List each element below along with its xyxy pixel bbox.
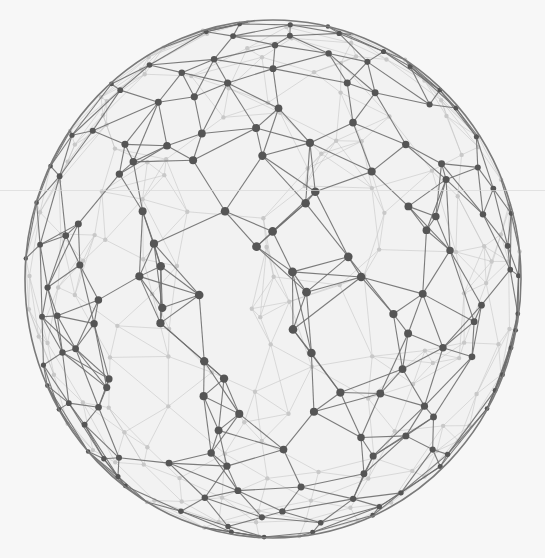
mesh-node (258, 152, 266, 160)
mesh-node (158, 304, 166, 312)
mesh-node (445, 452, 450, 457)
mesh-node (344, 253, 353, 262)
mesh-node (325, 50, 331, 56)
mesh-node (37, 334, 41, 338)
mesh-node (272, 42, 278, 48)
mesh-node (179, 69, 186, 76)
mesh-node (73, 142, 77, 146)
mesh-node (115, 474, 120, 479)
mesh-node (163, 142, 171, 150)
mesh-node (220, 495, 224, 499)
mesh-node (72, 345, 79, 352)
mesh-node (398, 490, 403, 495)
mesh-node (286, 412, 290, 416)
mesh-node (59, 349, 65, 355)
network-sphere-graphic (0, 0, 545, 558)
mesh-node (103, 384, 110, 391)
mesh-node (95, 296, 103, 304)
mesh-node (270, 65, 277, 72)
mesh-node (372, 89, 379, 96)
mesh-node (419, 290, 427, 298)
mesh-node (430, 447, 436, 453)
mesh-node (507, 327, 511, 331)
mesh-node (366, 476, 370, 480)
mesh-node (310, 408, 318, 416)
mesh-node (381, 49, 386, 54)
mesh-node (399, 365, 407, 373)
mesh-node (370, 354, 374, 358)
mesh-node (484, 281, 488, 285)
mesh-node (441, 424, 445, 428)
mesh-node (384, 57, 388, 61)
mesh-node (215, 426, 223, 434)
mesh-node (288, 22, 293, 27)
mesh-node (115, 324, 119, 328)
mesh-node (121, 141, 128, 148)
mesh-node (44, 284, 50, 290)
mesh-node (73, 293, 77, 297)
mesh-node (439, 344, 446, 351)
mesh-node (259, 514, 265, 520)
mesh-node (166, 460, 173, 467)
mesh-node (56, 285, 60, 289)
mesh-node (142, 462, 146, 466)
mesh-node (189, 156, 197, 164)
mesh-node (252, 124, 260, 132)
mesh-node (92, 233, 96, 237)
mesh-node (105, 375, 112, 382)
mesh-node (389, 310, 397, 318)
mesh-node (221, 115, 225, 119)
mesh-node (230, 33, 236, 39)
mesh-node (462, 340, 466, 344)
mesh-node (75, 220, 82, 227)
mesh-node (319, 151, 323, 155)
mesh-node (349, 119, 357, 127)
mesh-node (393, 429, 397, 433)
mesh-node (103, 238, 107, 242)
mesh-node (54, 313, 60, 319)
mesh-node (156, 319, 164, 327)
mesh-node (302, 288, 311, 297)
mesh-node (423, 348, 427, 352)
mesh-edge (204, 361, 205, 396)
mesh-node (301, 199, 310, 208)
mesh-node (116, 170, 123, 177)
mesh-node (39, 314, 45, 320)
mesh-node (145, 445, 149, 449)
mesh-node (334, 139, 338, 143)
mesh-node (135, 272, 143, 280)
mesh-node (90, 128, 96, 134)
mesh-node (496, 342, 500, 346)
mesh-node (150, 240, 158, 248)
mesh-node (318, 520, 324, 526)
mesh-node (287, 33, 293, 39)
mesh-node (37, 242, 43, 248)
mesh-node (221, 207, 230, 216)
mesh-node (235, 410, 243, 418)
mesh-node (268, 342, 272, 346)
scan-artifact-line (0, 190, 545, 191)
mesh-node (421, 403, 428, 410)
mesh-node (69, 133, 74, 138)
mesh-node (337, 31, 342, 36)
mesh-node (113, 146, 117, 150)
mesh-node (354, 54, 358, 58)
mesh-node (404, 202, 412, 210)
mesh-node (338, 90, 342, 94)
mesh-node (431, 361, 435, 365)
mesh-node (200, 357, 208, 365)
mesh-node (108, 355, 112, 359)
mesh-node (195, 291, 204, 300)
mesh-node (271, 275, 275, 279)
mesh-node (482, 244, 486, 248)
mesh-node (475, 164, 481, 170)
mesh-node (155, 99, 162, 106)
mesh-node (38, 210, 42, 214)
mesh-node (443, 176, 450, 183)
mesh-node (113, 460, 117, 464)
mesh-node (76, 261, 83, 268)
mesh-node (505, 243, 511, 249)
mesh-node (456, 194, 460, 198)
mesh-node (474, 392, 478, 396)
geodesic-network-sphere-illustration (0, 0, 545, 558)
